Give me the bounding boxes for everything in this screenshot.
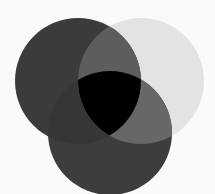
venn-diagram <box>0 0 215 194</box>
